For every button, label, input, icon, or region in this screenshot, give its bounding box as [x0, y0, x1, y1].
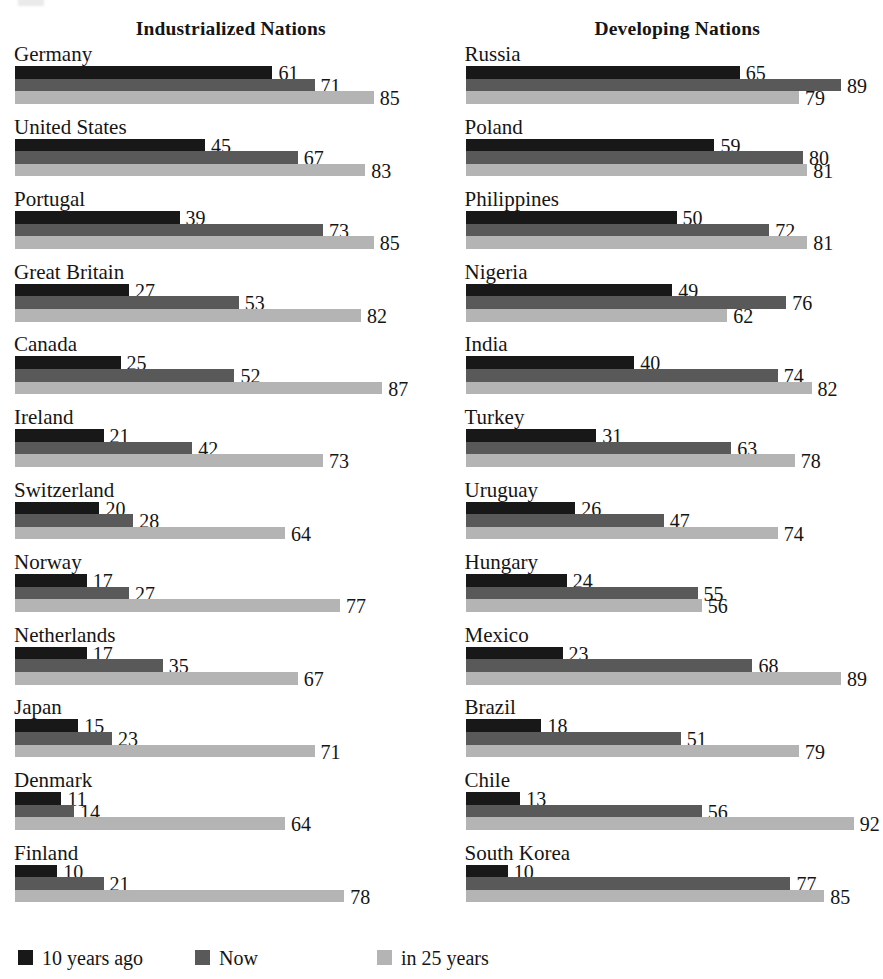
bar-row: 73 — [15, 224, 442, 237]
legend-label-10-years-ago: 10 years ago — [42, 948, 143, 968]
bar-value-label: 85 — [824, 891, 850, 904]
bar-group-bars: 185179 — [442, 719, 883, 767]
bar-10-years-ago — [15, 574, 87, 587]
bar-group-bars: 236889 — [442, 647, 883, 695]
panel-developing-nations: Developing Nations Russia658979Poland598… — [442, 16, 883, 914]
bar-row: 82 — [466, 382, 883, 395]
bar-10-years-ago — [466, 792, 521, 805]
bar-group-label: Netherlands — [0, 624, 442, 647]
bar-in-25-years — [15, 236, 374, 249]
bar-10-years-ago — [15, 719, 78, 732]
bar-group-label: India — [442, 333, 883, 356]
bar-value-label: 73 — [323, 455, 349, 468]
bar-group-bars: 598081 — [442, 139, 883, 187]
bar-in-25-years — [466, 236, 808, 249]
bar-row: 73 — [15, 454, 442, 467]
legend-item-in-25-years: in 25 years — [377, 945, 489, 969]
bar-value-label: 79 — [799, 92, 825, 105]
bar-now — [15, 514, 133, 527]
bar-row: 45 — [15, 139, 442, 152]
bar-group: Poland598081 — [442, 116, 883, 189]
bar-row: 24 — [466, 574, 883, 587]
bar-now — [466, 659, 753, 672]
bar-group-label: Brazil — [442, 696, 883, 719]
bar-value-label: 56 — [702, 600, 728, 613]
bar-group-label: Chile — [442, 769, 883, 792]
bar-in-25-years — [15, 91, 374, 104]
bar-now — [15, 587, 129, 600]
bar-now — [15, 369, 234, 382]
bar-group-label: Mexico — [442, 624, 883, 647]
bar-value-label: 62 — [727, 310, 753, 323]
bar-now — [15, 79, 315, 92]
bar-row: 17 — [15, 574, 442, 587]
bar-row: 15 — [15, 719, 442, 732]
bar-10-years-ago — [466, 502, 576, 515]
bar-group-bars: 617185 — [0, 66, 442, 114]
bar-row: 89 — [466, 672, 883, 685]
bar-10-years-ago — [466, 356, 635, 369]
bar-in-25-years — [15, 599, 340, 612]
bar-10-years-ago — [15, 211, 180, 224]
bar-group: Canada255287 — [0, 333, 442, 406]
bar-row: 13 — [466, 792, 883, 805]
bar-value-label: 77 — [340, 600, 366, 613]
bar-group: Norway172777 — [0, 551, 442, 624]
bar-groups-developing: Russia658979Poland598081Philippines50728… — [442, 43, 883, 914]
bar-group-label: Philippines — [442, 188, 883, 211]
bar-now — [466, 805, 702, 818]
bar-group: Nigeria497662 — [442, 261, 883, 334]
bar-row: 85 — [15, 236, 442, 249]
bar-row: 82 — [15, 309, 442, 322]
bar-row: 81 — [466, 164, 883, 177]
legend-item-now: Now — [195, 945, 258, 969]
bar-row: 85 — [466, 890, 883, 903]
bar-row: 71 — [15, 79, 442, 92]
bar-in-25-years — [466, 164, 808, 177]
bar-group: South Korea107785 — [442, 842, 883, 915]
bar-10-years-ago — [466, 865, 508, 878]
bar-group-label: Switzerland — [0, 479, 442, 502]
bar-row: 10 — [466, 865, 883, 878]
bar-group-label: Russia — [442, 43, 883, 66]
bar-now — [15, 442, 192, 455]
bar-group-label: Japan — [0, 696, 442, 719]
chart-container: Industrialized Nations Germany617185Unit… — [0, 0, 883, 979]
bar-value-label: 81 — [807, 237, 833, 250]
bar-group-label: South Korea — [442, 842, 883, 865]
scan-artifact — [18, 0, 44, 6]
bar-10-years-ago — [466, 429, 597, 442]
bar-row: 78 — [466, 454, 883, 467]
bar-group-label: Poland — [442, 116, 883, 139]
bar-10-years-ago — [466, 66, 740, 79]
bar-group-bars: 245556 — [442, 574, 883, 622]
bar-group-bars: 152371 — [0, 719, 442, 767]
bar-in-25-years — [466, 527, 778, 540]
bar-row: 71 — [15, 745, 442, 758]
bar-now — [466, 442, 732, 455]
bar-in-25-years — [466, 454, 795, 467]
panel-columns: Industrialized Nations Germany617185Unit… — [0, 16, 883, 914]
bar-value-label: 81 — [807, 165, 833, 178]
bar-row: 50 — [466, 211, 883, 224]
bar-group: Philippines507281 — [442, 188, 883, 261]
legend-swatch-icon-now — [195, 950, 210, 965]
bar-row: 39 — [15, 211, 442, 224]
bar-value-label: 92 — [854, 818, 880, 831]
bar-row: 87 — [15, 382, 442, 395]
bar-now — [466, 151, 804, 164]
bar-value-label: 87 — [382, 383, 408, 396]
bar-group: India407482 — [442, 333, 883, 406]
bar-group-label: Denmark — [0, 769, 442, 792]
bar-group-label: Canada — [0, 333, 442, 356]
bar-row: 35 — [15, 659, 442, 672]
bar-row: 52 — [15, 369, 442, 382]
bar-10-years-ago — [15, 647, 87, 660]
bar-row: 78 — [15, 890, 442, 903]
bar-row: 49 — [466, 284, 883, 297]
bar-group: Ireland214273 — [0, 406, 442, 479]
bar-value-label: 78 — [795, 455, 821, 468]
bar-group: Netherlands173567 — [0, 624, 442, 697]
bar-row: 47 — [466, 514, 883, 527]
bar-group-label: Uruguay — [442, 479, 883, 502]
